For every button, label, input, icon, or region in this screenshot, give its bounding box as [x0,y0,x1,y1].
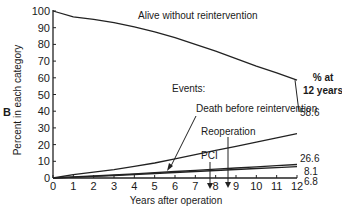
x-tick-label: 0 [50,180,56,192]
value-death: 26.6 [300,153,320,164]
y-tick-label: 60 [38,72,50,84]
value-pci: 6.8 [304,176,318,187]
panel-label: B [3,106,11,118]
survival-chart: 0102030405060708090100 0123456789101112 … [0,0,342,216]
x-tick-label: 7 [192,180,198,192]
death-label: Death before reintervention [196,103,317,114]
x-tick-label: 3 [111,180,117,192]
y-ticks: 0102030405060708090100 [32,5,56,184]
x-tick-label: 11 [271,180,282,192]
alive-label: Alive without reintervention [138,10,258,21]
y-tick-label: 20 [38,139,50,151]
x-tick-label: 10 [250,180,262,192]
x-tick-label: 8 [213,180,219,192]
y-tick-label: 80 [38,38,50,50]
pci-label: PCI [201,150,218,161]
value-alive: 58.6 [300,107,320,118]
pct-header-line1: % at [313,72,334,83]
curve-alive-without-reintervention [53,11,297,80]
y-tick-label: 30 [38,122,50,134]
x-tick-label: 4 [131,180,137,192]
y-tick-label: 70 [38,55,50,67]
y-tick-label: 100 [32,5,50,17]
pct-header-line2: 12 years [303,85,342,96]
x-tick-label: 9 [233,180,239,192]
x-tick-label: 2 [91,180,97,192]
y-tick-label: 10 [38,155,50,167]
reoperation-label: Reoperation [201,126,255,137]
curves [53,11,299,178]
y-tick-label: 50 [38,89,50,101]
y-tick-label: 40 [38,105,50,117]
death-arrow-line [170,116,196,168]
y-axis-title: Percent in each category [12,45,23,156]
x-tick-label: 6 [172,180,178,192]
reop-arrowhead [225,182,231,188]
x-tick-label: 12 [291,180,303,192]
y-tick-label: 90 [38,22,50,34]
x-tick-label: 1 [70,180,76,192]
x-axis-title: Years after operation [130,195,222,206]
x-tick-label: 5 [152,180,158,192]
events-label: Events: [172,83,205,94]
